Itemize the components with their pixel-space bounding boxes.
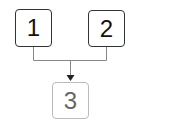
node-1-label: 1 (27, 14, 40, 42)
node-3: 3 (52, 82, 89, 119)
arrowhead-icon (67, 75, 75, 81)
node-1: 1 (15, 9, 52, 47)
node-2-label: 2 (100, 15, 113, 43)
node-3-label: 3 (64, 87, 77, 115)
node-2: 2 (88, 10, 125, 47)
